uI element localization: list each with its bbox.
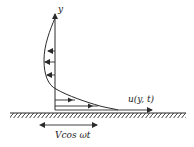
y-axis-label: y [57,4,64,14]
diagram-canvas: y u(y, t) Vcos ωt [0,0,194,147]
profile-label: u(y, t) [128,94,155,104]
leftward-velocity-arrows [45,51,55,75]
oscillating-plate [10,113,186,118]
plate-motion-label: Vcos ωt [55,130,91,140]
